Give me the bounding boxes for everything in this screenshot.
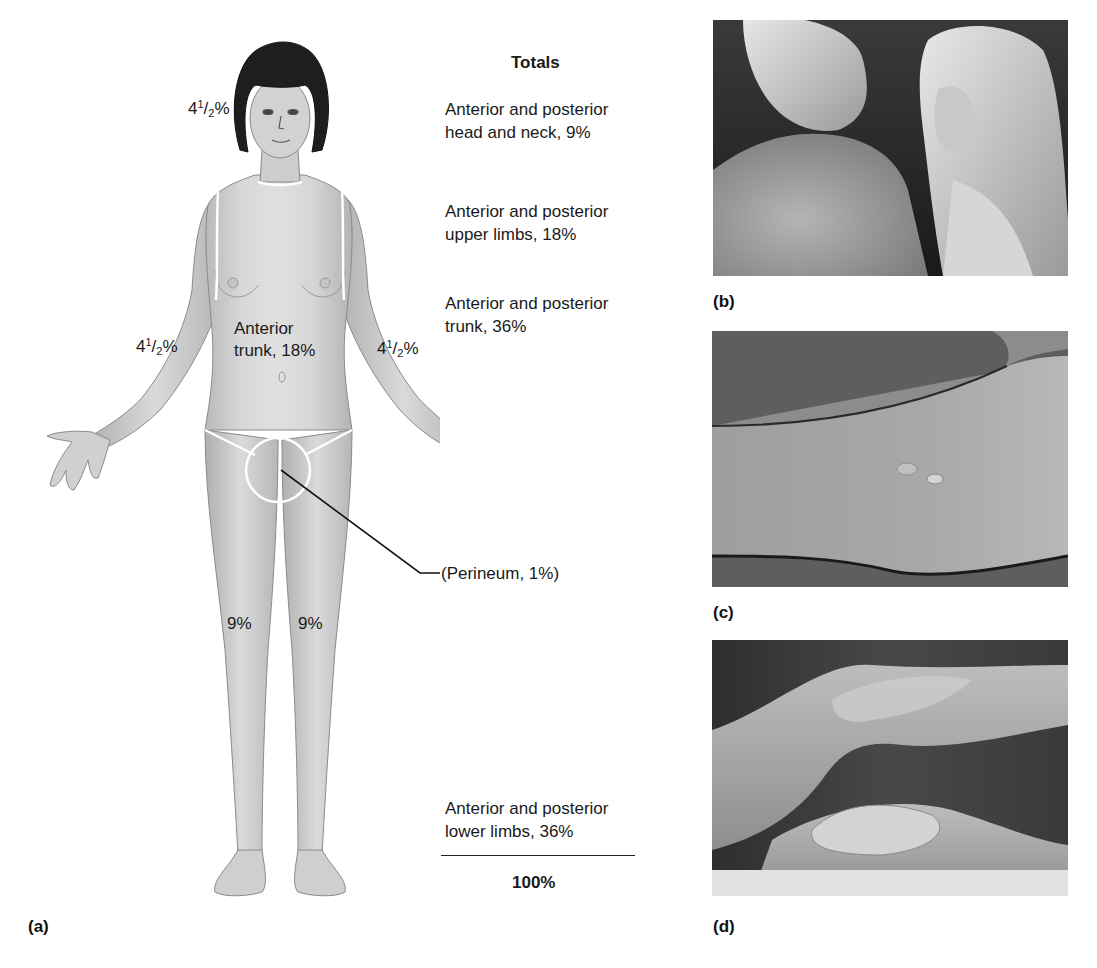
total-lower-limbs-line1: Anterior and posterior [445,797,685,820]
total-trunk: Anterior and posterior trunk, 36% [445,292,685,338]
total-trunk-line2: trunk, 36% [445,315,685,338]
right-shoulder-boundary [216,190,218,300]
left-arm [340,195,440,452]
face [250,78,310,158]
panel-label-b: (b) [713,292,735,312]
total-upper-limbs-line1: Anterior and posterior [445,200,685,223]
left-leg [282,430,352,855]
left-arm-percent-label: 41/2% [377,334,419,363]
grand-total: 100% [512,873,555,893]
photo-burned-legs [712,640,1068,896]
perineum-label: (Perineum, 1%) [441,564,559,584]
total-upper-limbs: Anterior and posterior upper limbs, 18% [445,200,685,246]
right-arm-percent-label: 41/2% [136,332,178,361]
panel-label-d: (d) [713,917,735,937]
anterior-trunk-label: Anterior trunk, 18% [234,318,315,362]
photo-blistered-arm [712,331,1068,587]
left-leg-percent-label: 9% [298,614,323,634]
photo-sunburn-back [713,20,1068,276]
anterior-trunk-line2: trunk, 18% [234,340,315,362]
right-leg-percent-label: 9% [227,614,252,634]
panel-label-a: (a) [28,917,49,937]
total-head-neck-line2: head and neck, 9% [445,121,685,144]
total-lower-limbs: Anterior and posterior lower limbs, 36% [445,797,685,843]
right-hand [47,431,110,490]
total-head-neck-line1: Anterior and posterior [445,98,685,121]
total-upper-limbs-line2: upper limbs, 18% [445,223,685,246]
right-leg [205,430,278,855]
totals-divider [441,855,635,856]
total-lower-limbs-line2: lower limbs, 36% [445,820,685,843]
body-diagram [0,0,440,968]
head-percent-label: 41/2% [188,94,230,123]
total-head-neck: Anterior and posterior head and neck, 9% [445,98,685,144]
torso [205,175,352,430]
human-figure [47,42,440,896]
anterior-trunk-line1: Anterior [234,318,315,340]
totals-title: Totals [511,53,560,73]
total-trunk-line1: Anterior and posterior [445,292,685,315]
right-arm [88,195,220,452]
left-shoulder-boundary [342,190,344,300]
right-foot [215,850,266,896]
left-foot [295,850,346,896]
panel-label-c: (c) [713,603,734,623]
